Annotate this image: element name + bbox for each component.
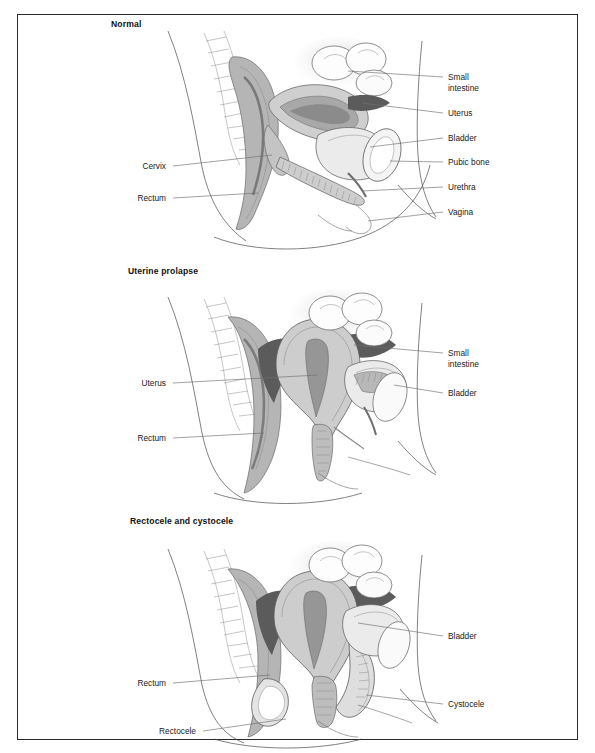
label-cervix-normal: Cervix [78, 161, 166, 172]
anatomy-illustration-rectocele-and-cystocele [18, 499, 579, 741]
label-cystocele-rectocele-and-cystocele: Cystocele [448, 699, 484, 710]
panel-rectocele-and-cystocele: Rectocele and cystocele [18, 499, 579, 741]
label-bladder-normal: Bladder [448, 133, 477, 144]
panel-uterine-prolapse: Uterine prolapse [18, 257, 579, 499]
label-small-intestine-uterine-prolapse: Small intestine [448, 348, 479, 369]
label-uterus-uterine-prolapse: Uterus [78, 378, 166, 389]
figure-page: Normal [0, 0, 595, 753]
figure-border: Normal [17, 14, 578, 740]
anatomy-illustration-normal [18, 15, 579, 257]
label-text: intestine [448, 83, 479, 93]
label-bladder-rectocele-and-cystocele: Bladder [448, 631, 477, 642]
label-text: Small [448, 72, 469, 82]
label-rectum-uterine-prolapse: Rectum [78, 433, 166, 444]
panel-normal: Normal [18, 15, 579, 257]
label-text: Small [448, 348, 469, 358]
label-uterus-normal: Uterus [448, 108, 472, 119]
label-vagina-normal: Vagina [448, 207, 473, 218]
label-bladder-uterine-prolapse: Bladder [448, 388, 477, 399]
label-rectum-normal: Rectum [78, 193, 166, 204]
label-pubic-bone-normal: Pubic bone [448, 157, 490, 168]
label-rectocele-rectocele-and-cystocele: Rectocele [103, 726, 196, 737]
label-rectum-rectocele-and-cystocele: Rectum [78, 678, 166, 689]
label-text: intestine [448, 359, 479, 369]
label-urethra-normal: Urethra [448, 182, 476, 193]
label-small-intestine-normal: Small intestine [448, 72, 479, 93]
